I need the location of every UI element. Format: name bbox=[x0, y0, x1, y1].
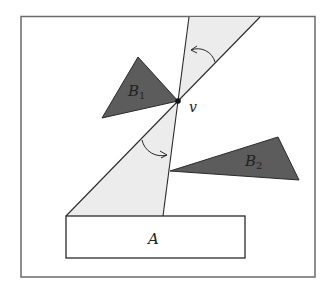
block-a-label: A bbox=[146, 230, 159, 248]
vertex-label: v bbox=[189, 99, 197, 115]
diagram-canvas: B1 B2 v A bbox=[0, 0, 332, 289]
vertex-point bbox=[175, 98, 181, 104]
